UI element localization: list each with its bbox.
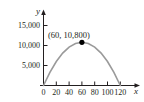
vertex-point-marker — [79, 40, 84, 45]
xtick-label-40: 40 — [63, 89, 75, 97]
x-axis-label: x — [134, 87, 138, 96]
xtick-label-120: 120 — [113, 89, 127, 97]
y-axis — [41, 10, 46, 87]
y-axis-ticks — [44, 26, 48, 66]
xtick-label-60: 60 — [76, 89, 88, 97]
xtick-label-20: 20 — [50, 89, 62, 97]
plot-area — [0, 0, 144, 102]
chart-figure: 15,000 10,000 5,000 0 20 40 60 80 100 12… — [0, 0, 144, 102]
vertex-annotation-label: (60, 10,800) — [48, 31, 90, 40]
y-axis-label: y — [36, 7, 40, 16]
xtick-label-0: 0 — [38, 89, 50, 97]
xtick-label-80: 80 — [89, 89, 101, 97]
parabola-curve — [44, 42, 121, 85]
ytick-label-10000: 10,000 — [4, 42, 40, 50]
ytick-label-5000: 5,000 — [4, 62, 40, 70]
ytick-label-15000: 15,000 — [4, 22, 40, 30]
x-axis-ticks — [44, 82, 121, 86]
